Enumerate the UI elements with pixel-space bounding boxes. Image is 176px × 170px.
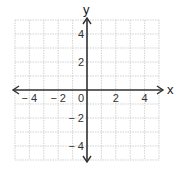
x-tick-label: 4 xyxy=(142,92,148,104)
y-tick-label: − 4 xyxy=(68,140,84,152)
coordinate-plane: xy − 4− 202442− 2− 4 xyxy=(0,0,176,170)
x-tick-label: 0 xyxy=(78,92,84,104)
axes: xy xyxy=(13,2,174,162)
x-tick-label: − 4 xyxy=(22,92,38,104)
y-tick-label: 4 xyxy=(78,28,84,40)
x-tick-label: 2 xyxy=(113,92,119,104)
y-tick-label: − 2 xyxy=(68,112,84,124)
x-tick-label: − 2 xyxy=(50,92,66,104)
y-axis-label: y xyxy=(83,2,90,17)
y-tick-label: 2 xyxy=(78,56,84,68)
x-axis-label: x xyxy=(167,82,174,97)
